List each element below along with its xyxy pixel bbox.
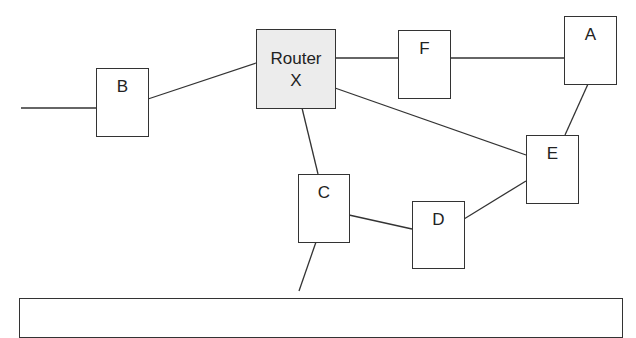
node-e-label: E [527, 144, 578, 164]
node-a-label: A [565, 25, 616, 45]
node-b: B [96, 68, 149, 137]
router-x: Router X [256, 29, 336, 109]
node-f-label: F [399, 39, 450, 59]
node-b-label: B [97, 77, 148, 97]
link-a-e [565, 84, 588, 135]
node-d: D [412, 201, 465, 269]
link-router-c [302, 108, 318, 174]
link-b-router [148, 63, 256, 99]
router-x-label: Router X [257, 48, 335, 92]
node-c-label: C [299, 183, 349, 203]
node-d-label: D [413, 210, 464, 230]
node-f: F [398, 30, 451, 99]
link-c-external [299, 242, 316, 291]
node-e: E [526, 135, 579, 204]
node-c: C [298, 174, 350, 243]
node-a: A [564, 16, 617, 85]
link-c-d [349, 215, 412, 229]
link-d-e [464, 181, 526, 219]
caption-box [19, 298, 623, 338]
